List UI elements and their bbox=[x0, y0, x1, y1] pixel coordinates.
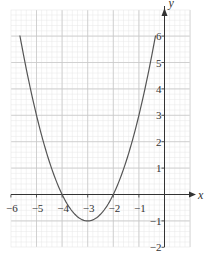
x-tick-label: −4 bbox=[57, 202, 69, 214]
x-tick-label: −2 bbox=[108, 202, 120, 214]
x-tick-label: −5 bbox=[32, 202, 44, 214]
y-tick-label: 5 bbox=[156, 57, 162, 69]
y-tick-label: 3 bbox=[156, 109, 162, 121]
parabola-chart: −6−5−4−3−2−1−2−1123456 x y bbox=[0, 0, 208, 262]
y-tick-label: 2 bbox=[156, 136, 162, 148]
y-tick-label: −2 bbox=[150, 241, 162, 253]
y-axis-arrow-icon bbox=[162, 8, 168, 16]
x-tick-label: −3 bbox=[83, 202, 95, 214]
y-tick-label: 6 bbox=[156, 30, 162, 42]
y-tick-label: −1 bbox=[150, 215, 162, 227]
x-axis-arrow-icon bbox=[189, 192, 196, 198]
x-axis-label: x bbox=[197, 188, 204, 202]
y-tick-label: 1 bbox=[156, 162, 162, 174]
x-tick-label: −1 bbox=[134, 202, 146, 214]
y-tick-label: 4 bbox=[156, 83, 162, 95]
y-axis-label: y bbox=[168, 0, 175, 10]
x-tick-label: −6 bbox=[6, 202, 18, 214]
